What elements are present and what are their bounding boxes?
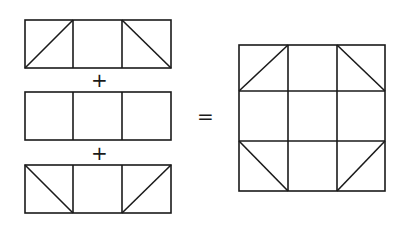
- bottom-strip: [25, 165, 171, 213]
- plus-sign-2: +: [91, 143, 108, 163]
- plus-sign-1: +: [91, 70, 108, 90]
- top-strip: [25, 20, 171, 68]
- middle-strip: [25, 92, 171, 140]
- equals-sign: =: [197, 106, 214, 126]
- assembled-block: [239, 45, 385, 191]
